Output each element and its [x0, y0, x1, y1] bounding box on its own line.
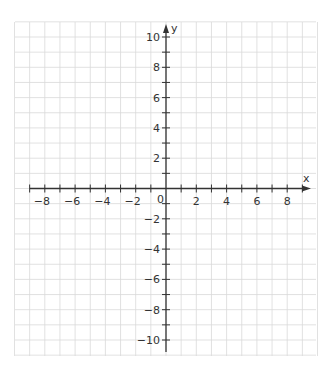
y-tick-label: −10: [137, 334, 160, 347]
y-axis-arrow-icon: [163, 24, 169, 33]
axes: [30, 24, 311, 352]
y-tick-label: 8: [153, 61, 160, 74]
y-tick-label: −4: [144, 243, 160, 256]
y-tick-label: 4: [153, 122, 160, 135]
y-tick-label: −6: [144, 273, 160, 286]
x-tick-label: 4: [223, 195, 230, 208]
y-axis-label: y: [171, 22, 178, 35]
origin-label: 0: [157, 193, 164, 206]
x-tick-label: 8: [284, 195, 291, 208]
coordinate-plane: −8−6−4−22468108642−2−4−6−8−10 x y 0: [0, 0, 330, 385]
x-axis-label: x: [303, 172, 310, 185]
x-tick-label: −8: [34, 195, 50, 208]
y-tick-label: −8: [144, 304, 160, 317]
x-axis-arrow-icon: [302, 186, 311, 192]
y-tick-label: 2: [153, 152, 160, 165]
x-tick-label: −4: [94, 195, 110, 208]
y-tick-label: −2: [144, 213, 160, 226]
y-tick-label: 6: [153, 92, 160, 105]
x-tick-label: 2: [193, 195, 200, 208]
x-tick-label: −2: [125, 195, 141, 208]
x-tick-label: 6: [253, 195, 260, 208]
x-tick-label: −6: [64, 195, 80, 208]
y-tick-label: 10: [146, 31, 160, 44]
